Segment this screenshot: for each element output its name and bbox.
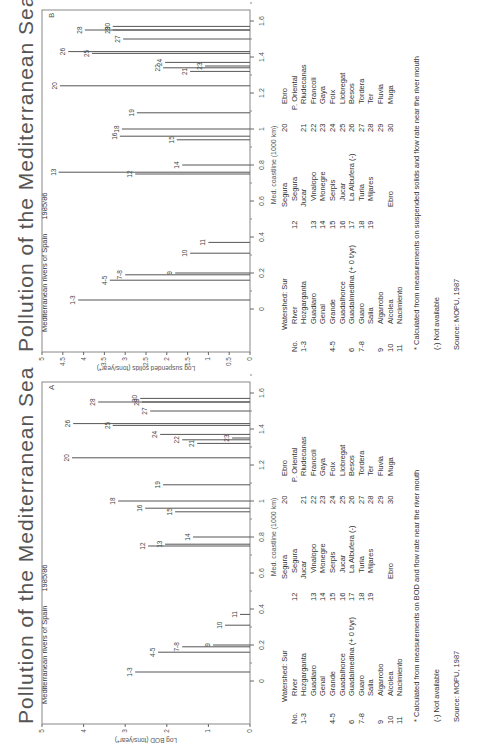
legend-river-name: River bbox=[290, 306, 299, 324]
legend-river-name: Ebro bbox=[280, 460, 289, 476]
legend-river-name: Foix bbox=[328, 90, 337, 104]
legend-number: 29 bbox=[376, 124, 385, 132]
legend-river-name: Guadalhorce bbox=[338, 653, 347, 696]
legend-number: No. bbox=[290, 340, 299, 352]
legend-river-name: Fluvia bbox=[376, 84, 385, 104]
legend-river-name: Segura bbox=[290, 549, 299, 573]
legend-number: 22 bbox=[309, 496, 318, 504]
legend-number: 30 bbox=[386, 496, 395, 504]
panel-b: Pollution of the Mediterranean Sea Medit… bbox=[0, 0, 498, 372]
legend-number: 17 bbox=[347, 593, 356, 601]
legend-river-name: Llobregat bbox=[338, 73, 347, 104]
legend-number: 24 bbox=[328, 124, 337, 132]
legend-number: 25 bbox=[338, 124, 347, 132]
legend-river-name: Muga bbox=[386, 85, 395, 104]
legend-river-name: Foix bbox=[328, 462, 337, 476]
legend-river-name: Guadiaro bbox=[309, 665, 318, 696]
legend-river-name: Algarrobo bbox=[376, 663, 385, 696]
legend-number: 27 bbox=[357, 124, 366, 132]
legend-river-name: Guadalmedina (+ 0 t/yr) bbox=[347, 245, 356, 324]
legend-number: 12 bbox=[290, 221, 299, 229]
legend-river-name: Genal bbox=[318, 304, 327, 324]
legend-river-name: Watershed: Sur bbox=[280, 650, 289, 702]
legend-number: 13 bbox=[309, 593, 318, 601]
legend-river-name: Watershed: Sur bbox=[280, 278, 289, 330]
legend-number: 16 bbox=[338, 593, 347, 601]
legend-river-name: Guadiaro bbox=[309, 293, 318, 324]
legend-river-name: Salia bbox=[366, 679, 375, 696]
legend-river-name: Serpis bbox=[328, 180, 337, 201]
legend-river-name: Genal bbox=[318, 676, 327, 696]
legend-river-name: Muga bbox=[386, 457, 395, 476]
not-available-note: (-) Not available bbox=[432, 669, 441, 722]
legend-river-name: Besos bbox=[347, 83, 356, 104]
legend-number: 11 bbox=[395, 716, 404, 724]
legend-number: 27 bbox=[357, 496, 366, 504]
legend-river-name: Ebro bbox=[386, 563, 395, 579]
legend-number: 19 bbox=[366, 221, 375, 229]
legend-number: 10 bbox=[386, 716, 395, 724]
legend-river-name: La Albufera (-) bbox=[347, 153, 356, 201]
legend-river-name: Fluvia bbox=[376, 456, 385, 476]
legend-river-name: Francoli bbox=[309, 77, 318, 104]
legend-river-name: Jucar bbox=[338, 555, 347, 573]
legend-river-name: Salia bbox=[366, 307, 375, 324]
legend-river-name: Guaro bbox=[357, 675, 366, 696]
legend-river-name: La Albufera (-) bbox=[347, 525, 356, 573]
legend-number: 7-8 bbox=[357, 713, 366, 724]
legend-river-name: Ebro bbox=[280, 88, 289, 104]
legend-river-name: Guadalmedina (+ 0 t/yr) bbox=[347, 617, 356, 696]
legend-number: 11 bbox=[395, 344, 404, 352]
legend-number: 15 bbox=[328, 593, 337, 601]
legend-number: 7-8 bbox=[357, 341, 366, 352]
legend-number: 18 bbox=[357, 593, 366, 601]
legend-number: No. bbox=[290, 712, 299, 724]
legend-number: 10 bbox=[386, 344, 395, 352]
legend-number: 9 bbox=[376, 720, 385, 724]
legend-river-name: Algarrobo bbox=[376, 291, 385, 324]
legend-number: 22 bbox=[309, 124, 318, 132]
legend-river-name: Jucar bbox=[338, 183, 347, 201]
legend-river-name: Hozgarganta bbox=[299, 653, 308, 696]
legend-river-name: Besos bbox=[347, 455, 356, 476]
legend-number: 16 bbox=[338, 221, 347, 229]
legend-number: 28 bbox=[366, 124, 375, 132]
legend-number: 13 bbox=[309, 221, 318, 229]
source-note: Source: MOPU, 1987 bbox=[452, 279, 461, 350]
legend-river-name: Alcolea bbox=[386, 299, 395, 324]
legend-river-name: Grande bbox=[328, 299, 337, 324]
legend-number: 18 bbox=[357, 221, 366, 229]
footnote: * Calculated from measurements on suspen… bbox=[412, 56, 421, 350]
legend-river-name: Jucar bbox=[299, 561, 308, 579]
legend-river-name: P. Oriental bbox=[290, 76, 299, 110]
legend-river-name: Vinalopo bbox=[309, 172, 318, 201]
legend-river-name: Grande bbox=[328, 671, 337, 696]
legend-river-name: Monegre bbox=[318, 171, 327, 201]
legend-number: 26 bbox=[347, 124, 356, 132]
legend-river-name: Mijares bbox=[366, 549, 375, 573]
legend-river-name: Tordera bbox=[357, 79, 366, 104]
legend-river-name: Francoli bbox=[309, 449, 318, 476]
legend-river-name: Jucar bbox=[299, 189, 308, 207]
legend-river-name: Segura bbox=[290, 177, 299, 201]
legend-river-name: River bbox=[290, 678, 299, 696]
legend-river-name: Ter bbox=[366, 466, 375, 476]
legend-number: 29 bbox=[376, 496, 385, 504]
legend-number: 25 bbox=[338, 496, 347, 504]
panel-a: Pollution of the Mediterranean Sea Medit… bbox=[0, 372, 498, 744]
legend-number: 15 bbox=[328, 221, 337, 229]
footnote: * Calculated from measurements on BOD an… bbox=[412, 470, 421, 722]
legend-river-name: Monegre bbox=[318, 543, 327, 573]
legend-river-name: Nacimiento bbox=[395, 658, 404, 696]
legend-river-name: Hozgarganta bbox=[299, 281, 308, 324]
legend-number: 28 bbox=[366, 496, 375, 504]
legend-number: 1-3 bbox=[299, 713, 308, 724]
legend-number: 17 bbox=[347, 221, 356, 229]
legend-river-name: Riudecanas bbox=[299, 64, 308, 104]
legend-river-name: Serpis bbox=[328, 552, 337, 573]
legend-river-name: Alcolea bbox=[386, 671, 395, 696]
legend-number: 4-5 bbox=[328, 713, 337, 724]
legend-number: 4-5 bbox=[328, 341, 337, 352]
legend-river-name: Turia bbox=[357, 184, 366, 201]
legend-a: Watershed: SurNo.River1-3HozgargantaGuad… bbox=[0, 372, 498, 744]
